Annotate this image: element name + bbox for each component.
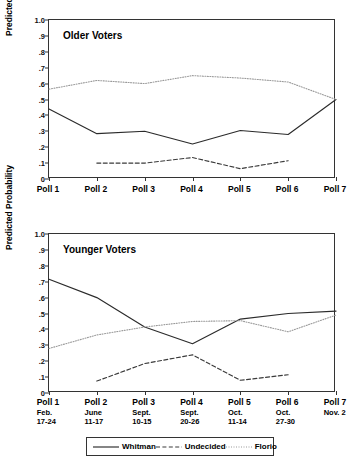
x-tick-mark [193, 177, 194, 181]
x-tick-mark [97, 177, 98, 181]
x-tick-mark [49, 177, 50, 181]
y-tick-mark [45, 377, 49, 378]
x-tick-mark [336, 177, 337, 181]
chart-legend: WhitmanUndecidedFlorio [86, 437, 274, 456]
series-line-undecided [97, 355, 288, 381]
poll-days: 20-26 [180, 417, 203, 427]
legend-label: Undecided [185, 442, 226, 451]
x-axis-tick-label: Poll 3 [132, 184, 155, 194]
y-tick-mark [45, 83, 49, 84]
poll-name: Poll 1 [37, 398, 60, 408]
series-line-florio [49, 76, 336, 100]
y-tick-mark [45, 234, 49, 235]
y-tick-mark [45, 265, 49, 266]
x-tick-mark [97, 391, 98, 395]
y-tick-mark [45, 35, 49, 36]
poll-days: 11-14 [228, 417, 251, 427]
x-tick-mark [145, 391, 146, 395]
x-axis-tick-label: Poll 7 [324, 184, 347, 194]
x-tick-mark [240, 177, 241, 181]
x-axis-tick-label: Poll 2 [84, 184, 107, 194]
legend-item-undecided: Undecided [156, 442, 226, 451]
x-axis-tick-label: Poll 7Nov. 2 [324, 398, 347, 417]
y-tick-mark [45, 361, 49, 362]
y-tick-mark [45, 281, 49, 282]
poll-days: 17-24 [37, 417, 60, 427]
poll-name: Poll 7 [324, 398, 347, 408]
poll-month: June [84, 408, 107, 418]
series-lines-younger-voters [49, 234, 336, 393]
legend-swatch-dotted [226, 443, 252, 451]
x-tick-mark [240, 391, 241, 395]
x-tick-mark [336, 391, 337, 395]
y-tick-mark [45, 297, 49, 298]
legend-swatch-dashed [156, 443, 182, 451]
y-tick-mark [45, 99, 49, 100]
figure-predicted-probability: Predicted Probability Older Voters 0.1.2… [0, 0, 360, 469]
y-tick-mark [45, 345, 49, 346]
y-tick-mark [45, 329, 49, 330]
series-lines-older-voters [49, 20, 336, 179]
x-axis-tick-label: Poll 5 [228, 184, 251, 194]
y-tick-mark [45, 20, 49, 21]
poll-name: Poll 5 [228, 398, 251, 408]
poll-month: Feb. [37, 408, 60, 418]
poll-days: 27-30 [276, 417, 299, 427]
poll-month: Oct. [228, 408, 251, 418]
y-tick-mark [45, 67, 49, 68]
plot-area-younger-voters: Younger Voters 0.1.2.3.4.5.6.7.8.91.0 [48, 233, 335, 392]
x-axis-tick-label: Poll 2June11-17 [84, 398, 107, 427]
poll-month: Oct. [276, 408, 299, 418]
y-tick-mark [45, 313, 49, 314]
x-tick-mark [288, 391, 289, 395]
x-tick-mark [145, 177, 146, 181]
poll-name: Poll 3 [132, 398, 155, 408]
y-tick-mark [45, 131, 49, 132]
chart-panel-older-voters: Predicted Probability Older Voters 0.1.2… [0, 8, 360, 198]
x-axis-tick-label: Poll 6Oct.27-30 [276, 398, 299, 427]
series-line-whitman [49, 100, 336, 145]
legend-item-whitman: Whitman [93, 442, 156, 451]
y-tick-mark [45, 147, 49, 148]
y-axis-label: Predicted Probability [4, 236, 18, 386]
poll-name: Poll 4 [180, 398, 203, 408]
y-tick-mark [45, 163, 49, 164]
poll-month: Sept. [180, 408, 203, 418]
x-tick-mark [193, 391, 194, 395]
x-axis-tick-label: Poll 4 [180, 184, 203, 194]
poll-month: Nov. 2 [324, 408, 347, 418]
legend-label: Whitman [122, 442, 156, 451]
x-axis-tick-label: Poll 3Sept.10-15 [132, 398, 155, 427]
series-line-undecided [97, 158, 288, 169]
plot-area-older-voters: Older Voters 0.1.2.3.4.5.6.7.8.91.0 [48, 19, 335, 178]
poll-month: Sept. [132, 408, 155, 418]
legend-label: Florio [255, 442, 277, 451]
poll-days: 11-17 [84, 417, 107, 427]
x-axis-tick-label: Poll 5Oct.11-14 [228, 398, 251, 427]
y-tick-mark [45, 115, 49, 116]
poll-name: Poll 6 [276, 398, 299, 408]
poll-days: 10-15 [132, 417, 155, 427]
x-tick-mark [288, 177, 289, 181]
legend-swatch-solid [93, 443, 119, 451]
chart-panel-younger-voters: Predicted Probability Younger Voters 0.1… [0, 222, 360, 462]
y-tick-mark [45, 249, 49, 250]
x-axis-tick-label: Poll 1Feb.17-24 [37, 398, 60, 427]
legend-item-florio: Florio [226, 442, 277, 451]
y-axis-label: Predicted Probability [4, 22, 18, 172]
series-line-whitman [49, 279, 336, 343]
x-axis-tick-label: Poll 4Sept.20-26 [180, 398, 203, 427]
x-tick-mark [49, 391, 50, 395]
x-axis-tick-label: Poll 1 [37, 184, 60, 194]
x-axis-tick-label: Poll 6 [276, 184, 299, 194]
y-tick-mark [45, 51, 49, 52]
poll-name: Poll 2 [84, 398, 107, 408]
